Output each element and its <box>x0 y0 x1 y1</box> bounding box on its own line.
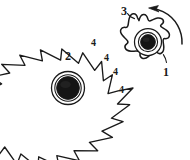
small-gear-hub-bore <box>141 35 156 50</box>
callout-label-4-c: 4 <box>113 67 118 77</box>
large-gear-hub-bore <box>57 77 80 100</box>
callout-label-4-b: 4 <box>104 53 109 63</box>
small-gear-hub-highlight <box>143 38 149 42</box>
large-gear-hub-highlight <box>60 81 70 88</box>
small-gear <box>121 14 170 59</box>
callout-label-4-a: 4 <box>91 38 96 48</box>
callout-label-2: 2 <box>65 50 71 62</box>
gear-assembly-figure: 1 2 3 4 4 4 4 <box>0 0 190 160</box>
callout-label-4-d: 4 <box>119 85 124 95</box>
callout-label-1: 1 <box>163 66 169 78</box>
leader-line-1 <box>163 55 166 63</box>
callout-label-3: 3 <box>121 5 127 17</box>
figure-canvas <box>0 0 190 160</box>
